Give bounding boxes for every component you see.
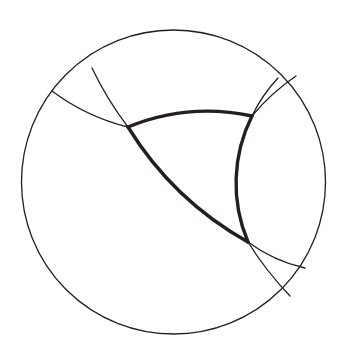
figure-background: [0, 0, 344, 356]
hyperbolic-triangle-figure: Hyperbolic triangle in the Poincare disk…: [0, 0, 344, 356]
figure-canvas: Hyperbolic triangle in the Poincare disk…: [0, 0, 344, 356]
